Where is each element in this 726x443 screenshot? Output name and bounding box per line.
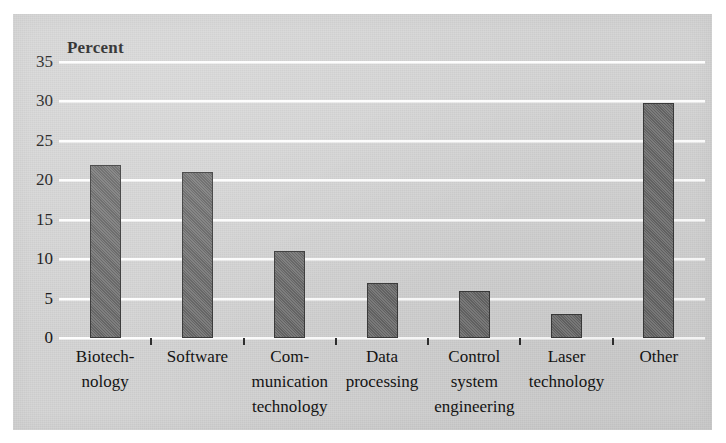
bar bbox=[643, 103, 674, 338]
bar bbox=[182, 172, 213, 338]
x-axis-label-line: munication bbox=[244, 369, 336, 394]
x-axis-label-line: Software bbox=[151, 344, 243, 369]
chart-panel: Percent 05101520253035 Biotech-nologySof… bbox=[13, 14, 712, 430]
y-tick-label-10: 10 bbox=[19, 249, 53, 269]
x-axis-label-line: Data bbox=[336, 344, 428, 369]
x-axis-label: Software bbox=[151, 344, 243, 369]
y-tick-label-25: 25 bbox=[19, 131, 53, 151]
x-axis-label-line: technology bbox=[244, 394, 336, 419]
x-axis-label: Controlsystemengineering bbox=[428, 344, 520, 419]
y-tick-label-20: 20 bbox=[19, 170, 53, 190]
bar bbox=[459, 291, 490, 338]
x-axis-label-line: Com- bbox=[244, 344, 336, 369]
x-axis-category-labels: Biotech-nologySoftwareCom-municationtech… bbox=[59, 344, 705, 430]
y-tick-label-15: 15 bbox=[19, 210, 53, 230]
x-axis-label-line: processing bbox=[336, 369, 428, 394]
x-axis-label-line: Other bbox=[613, 344, 705, 369]
plot-area bbox=[59, 62, 705, 338]
x-axis-label: Lasertechnology bbox=[520, 344, 612, 394]
gridline-30 bbox=[59, 100, 705, 102]
bar bbox=[551, 314, 582, 338]
bar bbox=[367, 283, 398, 338]
x-axis-label: Dataprocessing bbox=[336, 344, 428, 394]
y-tick-label-35: 35 bbox=[19, 52, 53, 72]
x-axis-label: Biotech-nology bbox=[59, 344, 151, 394]
x-axis-label-line: system bbox=[428, 369, 520, 394]
x-axis-label-line: nology bbox=[59, 369, 151, 394]
y-tick-label-0: 0 bbox=[19, 328, 53, 348]
y-tick-label-30: 30 bbox=[19, 91, 53, 111]
bar bbox=[274, 251, 305, 338]
x-axis-label-line: Control bbox=[428, 344, 520, 369]
gridline-35 bbox=[59, 61, 705, 63]
x-axis-label-line: technology bbox=[520, 369, 612, 394]
gridline-10 bbox=[59, 258, 705, 260]
y-tick-label-5: 5 bbox=[19, 289, 53, 309]
x-axis-label-line: Laser bbox=[520, 344, 612, 369]
gridline-25 bbox=[59, 140, 705, 142]
x-axis-label: Com-municationtechnology bbox=[244, 344, 336, 419]
bar bbox=[90, 165, 121, 338]
bar-chart-figure: Percent 05101520253035 Biotech-nologySof… bbox=[0, 0, 726, 443]
gridline-15 bbox=[59, 219, 705, 221]
x-axis-label-line: engineering bbox=[428, 394, 520, 419]
y-axis-title: Percent bbox=[67, 38, 124, 58]
y-axis-tick-labels: 05101520253035 bbox=[13, 62, 53, 338]
gridline-20 bbox=[59, 179, 705, 181]
x-axis-label-line: Biotech- bbox=[59, 344, 151, 369]
x-axis-label: Other bbox=[613, 344, 705, 369]
